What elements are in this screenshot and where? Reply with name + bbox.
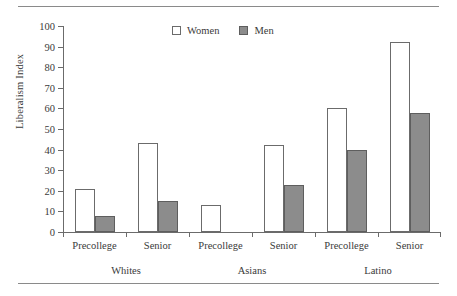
y-tick-mark [58,67,63,68]
group-label: Asians [238,265,267,276]
top-rule [18,6,439,7]
x-tick-label: Senior [270,240,297,251]
x-tick-label: Precollege [198,240,242,251]
x-tick-mark [315,232,316,237]
plot-area: 0102030405060708090100 PrecollegeSeniorP… [63,26,441,232]
x-tick-mark [252,232,253,237]
x-tick-mark [189,232,190,237]
x-tick-label: Senior [144,240,171,251]
y-tick-mark [58,150,63,151]
y-tick-label: 70 [45,82,56,93]
x-tick-mark [378,232,379,237]
y-tick-mark [58,170,63,171]
y-tick-label: 10 [45,206,56,217]
x-tick-mark [440,232,441,237]
bar-women [327,108,347,232]
y-tick-label: 100 [39,21,55,32]
bar-men [158,201,178,232]
bar-women [138,143,158,232]
y-tick-label: 60 [45,103,56,114]
y-tick-mark [58,211,63,212]
y-tick-mark [58,108,63,109]
x-tick-mark [63,232,64,237]
bar-women [390,42,410,232]
group-label: Whites [111,265,141,276]
bar-women [75,189,95,232]
x-tick-label: Precollege [324,240,368,251]
y-axis-line [63,26,64,232]
group-label: Latino [364,265,391,276]
bottom-rule [18,283,439,284]
y-tick-label: 80 [45,62,56,73]
y-tick-mark [58,47,63,48]
figure: Liberalism Index Women Men 0102030405060… [0,0,457,296]
y-tick-label: 50 [45,124,56,135]
bar-men [284,185,304,232]
y-tick-label: 90 [45,41,56,52]
y-axis-title: Liberalism Index [14,54,25,129]
x-tick-label: Precollege [72,240,116,251]
y-tick-mark [58,191,63,192]
bar-men [95,216,115,232]
bar-women [264,145,284,232]
y-tick-label: 30 [45,165,56,176]
y-tick-label: 20 [45,185,56,196]
bar-men [410,113,430,232]
bar-women [201,205,221,232]
y-tick-mark [58,129,63,130]
x-tick-label: Senior [396,240,423,251]
y-tick-mark [58,26,63,27]
y-tick-label: 0 [50,227,55,238]
y-tick-mark [58,88,63,89]
y-tick-label: 40 [45,144,56,155]
x-tick-mark [126,232,127,237]
bar-men [347,150,367,232]
